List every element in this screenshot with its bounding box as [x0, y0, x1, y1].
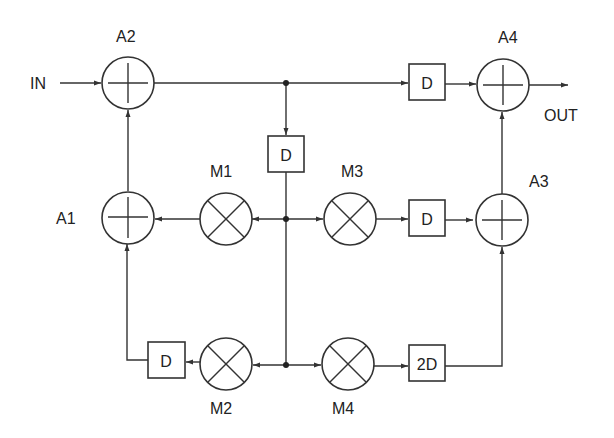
- adder-a1-label: A1: [56, 210, 76, 227]
- output-label: OUT: [544, 107, 578, 124]
- input-label: IN: [30, 75, 46, 92]
- multiplier-m4-label: M4: [332, 400, 354, 417]
- delay-top: D: [409, 64, 445, 100]
- delay-center: D: [268, 136, 304, 172]
- wire-d-bottom-to-a1: [127, 244, 148, 360]
- adder-a4-label: A4: [498, 29, 518, 46]
- multiplier-m3-label: M3: [341, 163, 363, 180]
- delay-mid-label: D: [421, 211, 433, 228]
- delay-mid: D: [409, 200, 445, 236]
- junction-dot-bottom: [283, 362, 289, 368]
- adder-a3: A3: [476, 173, 549, 246]
- delay-2d-label: 2D: [417, 356, 437, 373]
- multiplier-m4: M4: [322, 338, 374, 417]
- multiplier-m1-label: M1: [210, 163, 232, 180]
- multiplier-m2-label: M2: [210, 400, 232, 417]
- delay-bottom: D: [148, 342, 185, 378]
- multiplier-m2: M2: [200, 338, 252, 417]
- junction-dot-top: [283, 80, 289, 86]
- delay-top-label: D: [421, 75, 433, 92]
- adder-a2-label: A2: [116, 28, 136, 45]
- block-diagram: A2 A4 A1 A3 M1 M3 M2: [0, 0, 614, 438]
- delay-center-label: D: [280, 147, 292, 164]
- adder-a4: A4: [477, 29, 529, 111]
- wire-2d-to-a3: [445, 247, 502, 366]
- delay-bottom-label: D: [160, 353, 172, 370]
- multiplier-m1: M1: [200, 163, 252, 245]
- adder-a1: A1: [56, 192, 154, 244]
- delay-2d: 2D: [409, 345, 445, 381]
- multiplier-m3: M3: [324, 163, 376, 245]
- junction-dot-middle: [283, 216, 289, 222]
- adder-a3-label: A3: [529, 173, 549, 190]
- adder-a2: A2: [102, 28, 154, 109]
